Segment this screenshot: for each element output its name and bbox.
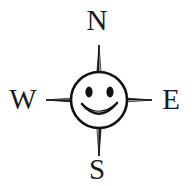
face-circle (71, 72, 127, 128)
cardinal-label-east: E (152, 85, 190, 114)
cardinal-label-west: W (4, 85, 42, 114)
right-eye (106, 87, 113, 98)
cardinal-label-north: N (0, 6, 194, 35)
cardinal-label-south: S (0, 155, 194, 184)
left-eye (85, 87, 92, 98)
smiley-face (71, 72, 127, 128)
compass-rose-figure: N W E S (0, 0, 194, 186)
